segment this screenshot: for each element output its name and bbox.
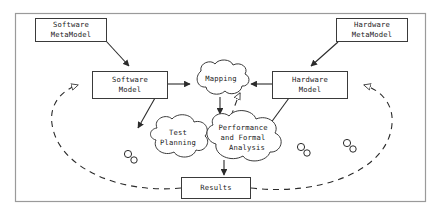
software-metamodel-label-line-1: Software [53, 20, 89, 29]
analysis-label-line-2: and Formal [221, 133, 266, 142]
analysis-label-line-3: Analysis [229, 143, 265, 152]
edge-swm-to-testplanning [138, 98, 155, 128]
diagram-canvas: Mapping Test Planning Performance and Fo… [0, 0, 446, 220]
node-hardware-metamodel[interactable]: Hardware MetaModel [337, 19, 408, 42]
gear-icon [131, 157, 137, 163]
edge-swmm-to-swm [106, 41, 129, 66]
node-mapping[interactable]: Mapping [197, 60, 249, 94]
node-performance-and-formal-analysis[interactable]: Performance and Formal Analysis [207, 111, 281, 161]
gear-icon [350, 146, 356, 152]
node-hardware-model[interactable]: Hardware Model [273, 72, 348, 99]
gear-icon [304, 150, 310, 156]
analysis-label-line-1: Performance [218, 123, 267, 132]
test-planning-label-line-2: Planning [160, 138, 196, 147]
hardware-metamodel-label-line-1: Hardware [354, 20, 390, 29]
diagram-root: Mapping Test Planning Performance and Fo… [0, 0, 446, 220]
software-metamodel-label-line-2: MetaModel [51, 30, 91, 39]
decoration-gear-pair-left [124, 150, 137, 163]
node-test-planning[interactable]: Test Planning [150, 115, 207, 157]
edge-hwmm-to-hwm [311, 42, 338, 66]
node-software-metamodel[interactable]: Software MetaModel [36, 19, 107, 42]
gear-icon [124, 150, 131, 157]
results-label-line-1: Results [200, 183, 231, 192]
hardware-model-label-line-2: Model [299, 85, 321, 94]
node-results[interactable]: Results [182, 178, 251, 199]
hardware-model-label-line-1: Hardware [292, 75, 328, 84]
decoration-gear-pair-middle [297, 143, 310, 156]
hardware-metamodel-label-line-2: MetaModel [352, 30, 392, 39]
decoration-gear-pair-right [343, 139, 356, 152]
test-planning-label-line-1: Test [169, 128, 187, 137]
software-model-label-line-1: Software [112, 75, 148, 84]
mapping-label-line-1: Mapping [205, 74, 236, 83]
software-model-label-line-2: Model [119, 85, 141, 94]
gear-icon [297, 143, 304, 150]
node-software-model[interactable]: Software Model [93, 72, 168, 99]
gear-icon [343, 139, 350, 146]
